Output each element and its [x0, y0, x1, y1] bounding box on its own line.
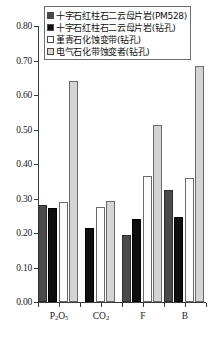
legend-item-3: 电气石化带蚀变者(钻孔) [47, 45, 187, 57]
bar [96, 207, 105, 302]
legend-item-1: 十字石红柱石二云母片岩(钻孔) [47, 21, 187, 33]
y-tick-label: 0.30 [16, 194, 32, 204]
y-tick [34, 26, 38, 27]
x-boundary-tick [122, 303, 123, 307]
x-boundary-tick [80, 303, 81, 307]
y-tick-label: 0.70 [16, 56, 32, 66]
y-tick-label: 0.40 [16, 159, 32, 169]
white-swatch-icon [47, 36, 54, 43]
x-tick [59, 303, 60, 307]
y-tick-label: 0.80 [16, 21, 32, 31]
bar [153, 125, 162, 302]
dark-gray-swatch-icon [47, 12, 54, 19]
light-gray-swatch-icon [47, 48, 54, 55]
x-tick-label: F [140, 311, 145, 321]
x-boundary-tick [206, 303, 207, 307]
y-tick [34, 164, 38, 165]
bar [59, 202, 68, 302]
bar [185, 178, 194, 302]
bar [69, 81, 78, 302]
x-tick-label: CO2 [93, 311, 109, 321]
x-tick-label: B [182, 311, 188, 321]
black-swatch-icon [47, 24, 54, 31]
bar [143, 176, 152, 302]
x-boundary-tick [38, 303, 39, 307]
bar [132, 219, 141, 302]
y-tick [34, 130, 38, 131]
y-tick-label: 0.50 [16, 125, 32, 135]
bar [48, 208, 57, 302]
bar [85, 228, 94, 302]
y-tick-label: 0.60 [16, 90, 32, 100]
y-tick [34, 95, 38, 96]
bar [174, 217, 183, 302]
y-tick-label: 0.20 [16, 228, 32, 238]
plot-area: 0.000.100.200.300.400.500.600.700.80 P2O… [38, 26, 206, 303]
legend-item-2: 堇青石化蚀变带(钻孔) [47, 33, 187, 45]
x-tick [143, 303, 144, 307]
x-tick [101, 303, 102, 307]
legend-item-0: 十字石红柱石二云母片岩(PM528) [47, 9, 187, 21]
bar-chart: 0.000.100.200.300.400.500.600.700.80 P2O… [0, 0, 214, 343]
legend-label-3: 电气石化带蚀变者(钻孔) [56, 45, 149, 58]
bar [38, 205, 47, 302]
bar [122, 235, 131, 302]
chart-legend: 十字石红柱石二云母片岩(PM528) 十字石红柱石二云母片岩(钻孔) 堇青石化蚀… [44, 6, 191, 60]
bar [164, 190, 173, 302]
y-tick [34, 199, 38, 200]
x-boundary-tick [164, 303, 165, 307]
x-tick-label: P2O5 [50, 311, 69, 321]
bar [195, 66, 204, 302]
y-tick-label: 0.10 [16, 263, 32, 273]
bar [106, 201, 115, 302]
y-tick [34, 61, 38, 62]
x-tick [185, 303, 186, 307]
y-tick-label: 0.00 [16, 297, 32, 307]
